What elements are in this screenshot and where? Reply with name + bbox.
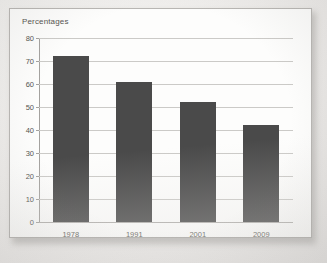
- x-axis-label-2009: 2009: [253, 230, 270, 239]
- y-tick-10: [36, 199, 39, 200]
- chart-title: Percentages: [22, 17, 69, 26]
- gridline-80: [39, 38, 293, 39]
- y-axis-label-20: 20: [26, 172, 34, 181]
- y-axis-label-80: 80: [26, 34, 34, 43]
- scanned-page-background: Percentages 01020304050607080 1978199120…: [0, 0, 327, 263]
- bar-2009: [243, 125, 279, 222]
- plot-area: 01020304050607080 1978199120012009: [39, 38, 293, 222]
- y-tick-50: [36, 107, 39, 108]
- x-axis-label-2001: 2001: [189, 230, 206, 239]
- y-tick-70: [36, 61, 39, 62]
- y-axis-label-60: 60: [26, 80, 34, 89]
- chart-card: Percentages 01020304050607080 1978199120…: [9, 8, 312, 238]
- y-axis-label-40: 40: [26, 126, 34, 135]
- y-axis-label-10: 10: [26, 195, 34, 204]
- y-tick-0: [36, 222, 39, 223]
- y-tick-20: [36, 176, 39, 177]
- y-tick-60: [36, 84, 39, 85]
- gridline-0: [39, 222, 293, 223]
- y-tick-80: [36, 38, 39, 39]
- y-axis-label-0: 0: [30, 218, 34, 227]
- y-axis-label-70: 70: [26, 57, 34, 66]
- y-axis-label-30: 30: [26, 149, 34, 158]
- y-tick-30: [36, 153, 39, 154]
- y-axis-label-50: 50: [26, 103, 34, 112]
- bar-2001: [180, 102, 216, 222]
- y-tick-40: [36, 130, 39, 131]
- x-axis-label-1991: 1991: [126, 230, 143, 239]
- bar-1991: [116, 82, 152, 222]
- bar-1978: [53, 56, 89, 222]
- x-axis-label-1978: 1978: [62, 230, 79, 239]
